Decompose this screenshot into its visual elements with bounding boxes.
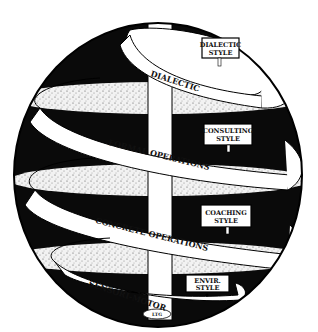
svg-text:STYLE: STYLE bbox=[196, 284, 220, 292]
spiral-sphere-diagram: DIALECTIC FORMAL OPERATIONS CONCRETE OPE… bbox=[0, 0, 318, 332]
ltg-label: LTG bbox=[152, 312, 162, 317]
svg-text:CONSULTING: CONSULTING bbox=[203, 127, 254, 135]
sphere bbox=[0, 0, 318, 332]
svg-text:STYLE: STYLE bbox=[214, 217, 238, 225]
svg-text:STYLE: STYLE bbox=[209, 49, 233, 57]
svg-text:COACHING: COACHING bbox=[205, 209, 247, 217]
svg-text:DIALECTIC: DIALECTIC bbox=[200, 41, 241, 49]
svg-text:STYLE: STYLE bbox=[216, 135, 240, 143]
